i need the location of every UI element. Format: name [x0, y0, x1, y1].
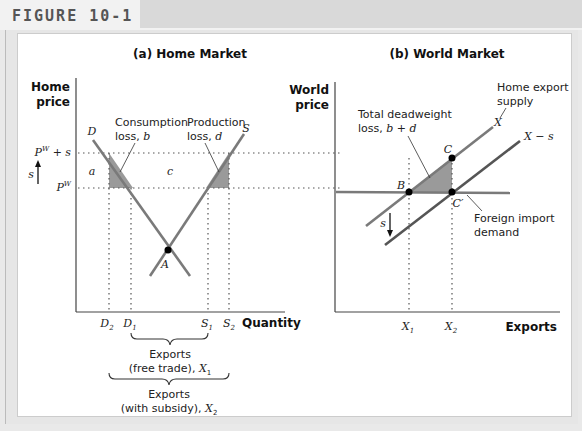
tick-s2: S2 — [223, 317, 236, 332]
foreign-demand-label-1: Foreign import — [474, 212, 555, 225]
foreign-demand-label-2: demand — [474, 226, 519, 239]
brace-free-trade-label-1: Exports — [149, 348, 191, 361]
world-price-label-1: World — [289, 83, 329, 97]
production-loss-pointer — [205, 143, 219, 172]
panel-home-market: (a) Home Market Home price A D S Consump… — [28, 47, 340, 417]
panel-b-title: (b) World Market — [389, 47, 504, 61]
production-loss-label-1: Production — [187, 116, 246, 129]
tick-x2: X2 — [444, 320, 458, 335]
world-price-label-2: price — [295, 98, 329, 112]
subsidy-arrowhead-icon — [35, 160, 41, 167]
brace-subsidy-label-1: Exports — [148, 388, 190, 401]
tick-x1: X1 — [401, 320, 414, 335]
brace-subsidy-label-2: (with subsidy), X2 — [121, 402, 218, 417]
production-loss-label-2: loss, d — [187, 130, 222, 143]
area-a-label: a — [89, 165, 96, 178]
price-pw-label: PW — [55, 180, 71, 194]
subsidy-arrow-b-label: s — [380, 217, 386, 230]
quantity-axis-label: Quantity — [242, 316, 301, 330]
panel-a-title: (a) Home Market — [133, 47, 247, 61]
consumption-loss-pointer — [120, 143, 135, 172]
dwl-label-2: loss, b + d — [358, 122, 417, 135]
tick-d2: D2 — [99, 317, 114, 332]
label-x-minus-s: X − s — [523, 130, 554, 143]
supply-curve — [150, 134, 244, 276]
home-price-label-1: Home — [31, 80, 70, 94]
label-d: D — [87, 125, 97, 138]
foreign-demand-pointer — [467, 195, 482, 211]
brace-free-trade — [131, 333, 208, 345]
label-c: C — [444, 143, 453, 156]
point-c-prime — [449, 189, 456, 196]
price-pw-plus-s-label: PW + s — [34, 145, 72, 159]
demand-curve — [93, 140, 190, 276]
label-c-prime: C′ — [453, 197, 464, 210]
dwl-pointer — [408, 136, 430, 178]
home-price-label-2: price — [36, 95, 70, 109]
area-c-label: c — [167, 165, 173, 178]
point-a — [165, 247, 172, 254]
dwl-label-1: Total deadweight — [357, 108, 452, 121]
panel-world-market: (b) World Market World price B C C′ Tota… — [289, 47, 569, 335]
production-loss-area — [206, 153, 229, 188]
label-x-curve: X — [493, 116, 503, 129]
figure-diagram: (a) Home Market Home price A D S Consump… — [0, 0, 582, 431]
brace-free-trade-label-2: (free trade), X1 — [129, 362, 211, 377]
label-a: A — [160, 258, 169, 271]
export-supply-label-1: Home export — [497, 81, 569, 94]
consumption-loss-label-1: Consumption — [115, 116, 188, 129]
exports-axis-label: Exports — [505, 320, 557, 334]
subsidy-arrow-label: s — [28, 168, 34, 181]
consumption-loss-label-2: loss, b — [115, 130, 150, 143]
tick-d1: D1 — [122, 317, 136, 332]
tick-s1: S1 — [201, 317, 213, 332]
export-supply-label-2: supply — [497, 95, 534, 108]
label-b: B — [396, 179, 405, 192]
foreign-import-demand-curve — [336, 192, 510, 193]
subsidy-arrowhead-down-icon — [387, 230, 393, 237]
point-b — [406, 189, 413, 196]
